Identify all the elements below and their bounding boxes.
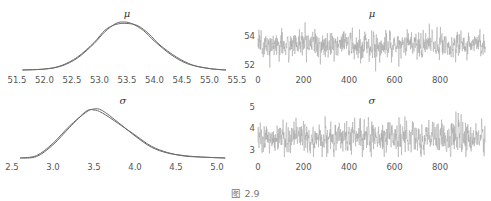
trace-sigma-yticks: 345 [250,102,255,154]
y-tick-label: 52 [244,60,255,70]
kde-mu-xticks: 51.552.052.553.053.554.054.555.055.5 [8,75,247,85]
y-tick-label: 54 [244,31,255,41]
trace-plot-mu: μ 0200400600800 5254 [244,8,485,85]
kde-mu-title: μ [124,8,131,19]
x-tick-label: 52.5 [63,75,82,85]
figure: μ 51.552.052.553.053.554.054.555.055.5 μ… [0,0,491,201]
x-tick-label: 3.0 [46,162,60,172]
x-tick-label: 54.5 [173,75,192,85]
kde-line [20,110,225,158]
y-tick-label: 3 [250,145,255,155]
trace-sigma-line [258,112,485,157]
x-tick-label: 600 [386,75,402,85]
y-tick-label: 4 [250,123,255,133]
y-tick-label: 5 [250,102,255,112]
x-tick-label: 600 [386,162,402,172]
x-tick-label: 5.0 [210,162,224,172]
x-tick-label: 54.0 [145,75,164,85]
x-tick-label: 800 [432,162,448,172]
x-tick-label: 53.5 [118,75,137,85]
x-tick-label: 400 [341,162,357,172]
trace-sigma-xticks: 0200400600800 [255,162,448,172]
x-tick-label: 200 [295,162,311,172]
kde-line [23,23,227,70]
x-tick-label: 800 [432,75,448,85]
trace-mu-xticks: 0200400600800 [255,75,448,85]
x-tick-label: 4.0 [128,162,142,172]
kde-plot-mu: μ 51.552.052.553.053.554.054.555.055.5 [8,8,247,85]
kde-line [23,22,227,70]
x-tick-label: 55.0 [200,75,219,85]
trace-mu-title: μ [369,8,376,19]
x-tick-label: 3.5 [87,162,101,172]
trace-mu-line [258,22,485,71]
trace-mu-yticks: 5254 [244,31,255,70]
kde-sigma-xticks: 2.53.03.54.04.55.0 [5,162,224,172]
x-tick-label: 52.0 [35,75,54,85]
x-tick-label: 51.5 [8,75,27,85]
figure-caption: 图 2.9 [0,186,491,200]
kde-sigma-title: σ [120,95,128,106]
trace-line [258,22,485,71]
kde-line [20,109,225,158]
x-tick-label: 55.5 [228,75,247,85]
trace-line [258,112,485,157]
kde-plot-sigma: σ 2.53.03.54.04.55.0 [5,95,225,172]
x-tick-label: 400 [341,75,357,85]
kde-sigma-curves [20,109,225,158]
kde-mu-curves [23,22,227,70]
x-tick-label: 53.0 [90,75,109,85]
x-tick-label: 2.5 [5,162,19,172]
trace-plot-sigma: σ 0200400600800 345 [250,95,486,172]
x-tick-label: 200 [295,75,311,85]
x-tick-label: 0 [255,75,260,85]
x-tick-label: 4.5 [169,162,183,172]
x-tick-label: 0 [255,162,260,172]
trace-sigma-title: σ [369,95,377,106]
